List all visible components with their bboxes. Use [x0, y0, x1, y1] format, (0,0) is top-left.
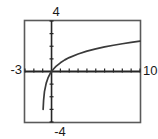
graph-container: 4 -3 10 -4 [0, 0, 158, 139]
ymin-label: -4 [54, 124, 66, 139]
xmax-label: 10 [143, 63, 157, 78]
function-graph: 4 -3 10 -4 [0, 0, 158, 139]
ymax-label: 4 [52, 4, 59, 19]
xmin-label: -3 [10, 62, 22, 77]
